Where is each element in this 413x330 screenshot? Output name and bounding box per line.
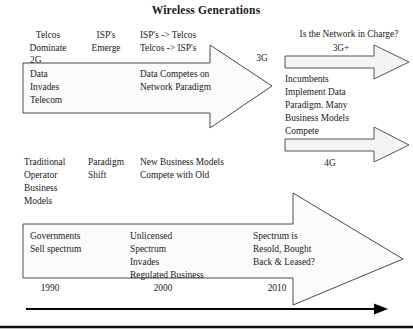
mid-col1-line1: Traditional (24, 157, 66, 167)
mid-col1-line3: Business (24, 183, 58, 193)
top-row-labels: Telcos Dominate 2G ISP's Emerge ISP's ->… (30, 30, 197, 65)
right-line2: Implement Data (285, 87, 346, 97)
generation-label-4g: 4G (324, 158, 336, 168)
band2-col2-line4: Regulated Business (130, 270, 204, 280)
mid-col1-line4: Models (24, 196, 52, 206)
mid-col1-line2: Operator (24, 170, 58, 180)
band2-col1-line1: Governments (30, 231, 81, 241)
top-col3-line1: ISP's -> Telcos (140, 30, 196, 40)
year-label-1990: 1990 (41, 283, 60, 293)
top-col2-line2: Emerge (92, 43, 121, 53)
right-line5: Compete (285, 126, 319, 136)
band2-col3-line1: Spectrum is (253, 231, 298, 241)
mid-col2-line1: Paradigm (88, 157, 125, 167)
mid-col2-line2: Shift (88, 170, 107, 180)
wireless-generations-figure: Wireless Generations Telcos Dominate 2G … (0, 0, 413, 330)
year-labels: 1990 2000 2010 (41, 283, 287, 293)
generation-label-3g-plus: 3G+ (333, 43, 350, 53)
band1-left-line3: Telecom (30, 95, 63, 105)
band1-mid-line2: Network Paradigm (140, 82, 212, 92)
mid-row-labels: Traditional Operator Business Models Par… (24, 157, 224, 206)
band2-col1-line2: Sell spectrum (30, 244, 82, 254)
figure-title: Wireless Generations (152, 4, 261, 16)
band2-col3-line2: Resold, Bought (253, 244, 312, 254)
right-line4: Business Models (285, 113, 349, 123)
band2-col3-line3: Back & Leased? (253, 257, 315, 267)
band2-col2-line3: Invades (130, 257, 160, 267)
year-label-2000: 2000 (154, 283, 173, 293)
year-label-2010: 2010 (268, 283, 287, 293)
band2-col2-line2: Spectrum (130, 244, 167, 254)
band1-left-line2: Invades (30, 82, 60, 92)
generation-label-3g: 3G (256, 53, 268, 63)
top-col1-line1: Telcos (36, 30, 61, 40)
right-line3: Paradigm. Many (285, 100, 348, 110)
figure-canvas: Wireless Generations Telcos Dominate 2G … (0, 0, 413, 330)
band2-col2-line1: Unlicensed (130, 231, 172, 241)
mid-col3-line2: Compete with Old (140, 170, 210, 180)
top-col2-line1: ISP's (97, 30, 116, 40)
right-panel-question: Is the Network in Charge? (300, 29, 399, 39)
right-panel-lines: Incumbents Implement Data Paradigm. Many… (285, 74, 349, 136)
band1-mid-line1: Data Competes on (140, 69, 210, 79)
top-col3-line2: Telcos -> ISP's (140, 43, 197, 53)
top-col1-line2: Dominate (30, 43, 67, 53)
right-line1: Incumbents (285, 74, 329, 84)
time-axis-arrowhead (374, 304, 388, 315)
mid-col3-line1: New Business Models (140, 157, 224, 167)
band1-left-line1: Data (30, 69, 49, 79)
